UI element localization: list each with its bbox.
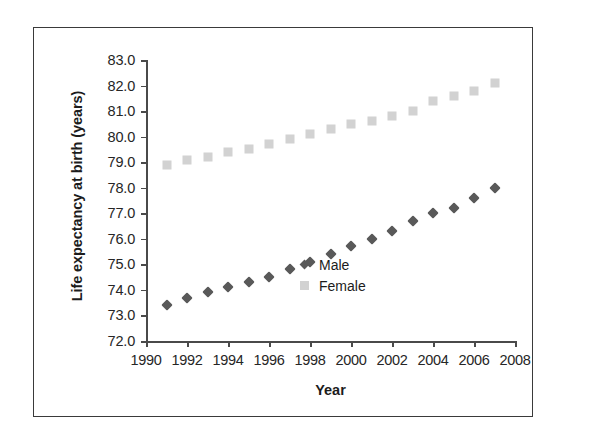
data-point [222, 282, 233, 293]
y-tick-label: 72.0 [83, 333, 135, 349]
y-axis-line [146, 60, 148, 341]
data-point [408, 107, 417, 116]
data-point [181, 292, 192, 303]
data-point [265, 140, 274, 149]
data-point [203, 153, 212, 162]
x-tick [310, 341, 312, 347]
x-tick [351, 341, 353, 347]
x-tick [187, 341, 189, 347]
data-point [161, 300, 172, 311]
data-point [470, 86, 479, 95]
y-tick [141, 264, 146, 266]
y-tick-label: 74.0 [83, 282, 135, 298]
x-tick-label: 1998 [288, 352, 332, 368]
data-point [326, 124, 335, 133]
data-point [183, 155, 192, 164]
data-point [285, 135, 294, 144]
y-tick [141, 315, 146, 317]
x-tick-label: 2008 [493, 352, 537, 368]
y-tick [141, 111, 146, 113]
data-point [345, 241, 356, 252]
square-marker-icon [296, 281, 312, 290]
legend-item-female: Female [296, 275, 366, 296]
legend-label-male: Male [319, 257, 349, 273]
data-point [243, 277, 254, 288]
data-point [367, 117, 376, 126]
data-point [489, 182, 500, 193]
data-point [347, 119, 356, 128]
x-tick-label: 2006 [452, 352, 496, 368]
y-tick [141, 86, 146, 88]
y-tick-label: 77.0 [83, 205, 135, 221]
data-point [388, 112, 397, 121]
y-tick-label: 81.0 [83, 103, 135, 119]
x-tick-label: 2000 [329, 352, 373, 368]
data-point [202, 287, 213, 298]
x-tick-label: 1992 [165, 352, 209, 368]
x-tick-label: 1994 [206, 352, 250, 368]
x-tick-label: 1996 [247, 352, 291, 368]
x-axis-title: Year [146, 382, 515, 398]
y-tick [141, 290, 146, 292]
data-point [386, 225, 397, 236]
data-point [449, 91, 458, 100]
data-point [448, 202, 459, 213]
y-tick-label: 83.0 [83, 52, 135, 68]
data-point [427, 208, 438, 219]
x-tick [392, 341, 394, 347]
data-point [244, 145, 253, 154]
y-tick-label: 79.0 [83, 154, 135, 170]
x-tick-label: 2002 [370, 352, 414, 368]
y-tick-label: 76.0 [83, 231, 135, 247]
x-tick [515, 341, 517, 347]
x-axis-line [146, 341, 515, 343]
plot-area: 72.073.074.075.076.077.078.079.080.081.0… [146, 60, 536, 341]
legend-label-female: Female [319, 278, 366, 294]
data-point [490, 78, 499, 87]
data-point [407, 215, 418, 226]
y-tick-label: 78.0 [83, 180, 135, 196]
x-tick-label: 1990 [124, 352, 168, 368]
y-tick [141, 213, 146, 215]
y-tick [141, 188, 146, 190]
y-tick [141, 239, 146, 241]
y-tick-label: 73.0 [83, 307, 135, 323]
data-point [366, 233, 377, 244]
y-tick [141, 60, 146, 62]
y-tick [141, 137, 146, 139]
data-point [429, 96, 438, 105]
y-tick-label: 82.0 [83, 78, 135, 94]
x-tick [474, 341, 476, 347]
x-tick-label: 2004 [411, 352, 455, 368]
x-tick [228, 341, 230, 347]
diamond-marker-icon [296, 261, 312, 268]
x-tick [146, 341, 148, 347]
data-point [468, 192, 479, 203]
y-tick-label: 75.0 [83, 256, 135, 272]
figure-frame: Life expectancy at birth (years) 72.073.… [33, 27, 533, 417]
data-point [162, 160, 171, 169]
data-point [306, 130, 315, 139]
x-tick [269, 341, 271, 347]
data-point [224, 147, 233, 156]
chart-legend: Male Female [296, 254, 366, 296]
legend-item-male: Male [296, 254, 366, 275]
y-tick [141, 162, 146, 164]
x-tick [433, 341, 435, 347]
data-point [263, 271, 274, 282]
y-tick-label: 80.0 [83, 129, 135, 145]
data-point [284, 264, 295, 275]
